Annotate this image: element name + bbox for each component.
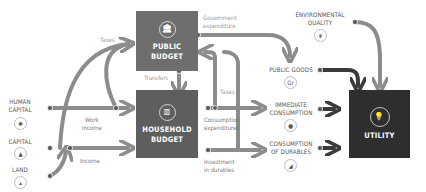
node-dot <box>317 67 322 72</box>
consumption-expenditures-line-2: expenditures <box>204 124 240 132</box>
bank-building-icon: 🏛 <box>159 21 176 38</box>
input-capital: CAPITAL <box>0 138 40 146</box>
flow-taxes-consumption <box>205 52 215 108</box>
household-budget-label-1: HOUSEHOLD <box>142 125 191 135</box>
investment-durables-line-2: in durables <box>204 166 235 174</box>
immediate-consumption-label-1: IMMEDIATE <box>264 101 318 109</box>
work-income-line-1: Work <box>82 116 102 124</box>
flow-label-taxes-mid: Taxes <box>220 88 235 96</box>
capital-label: CAPITAL <box>0 138 40 146</box>
output-immediate-consumption: IMMEDIATE CONSUMPTION <box>264 101 318 116</box>
public-budget-label-1: PUBLIC <box>153 42 182 52</box>
public-goods-label: PUBLIC GOODS <box>264 66 318 74</box>
land-icon: ▴ <box>14 176 27 189</box>
consumption-expenditures-line-1: Consumption <box>204 116 240 124</box>
pile-icon: ▲ <box>14 147 27 160</box>
flow-land <box>50 152 66 176</box>
node-dot <box>47 145 52 150</box>
node-dot <box>205 147 210 152</box>
work-income-line-2: Income <box>82 124 102 132</box>
node-dot <box>317 145 322 150</box>
household-budget-box: ▥ HOUSEHOLD BUDGET <box>136 90 198 158</box>
consumption-durables-label-2: OF DURABLES <box>264 148 318 156</box>
flow-label-transfers: Transfers <box>144 74 168 82</box>
lightbulb-icon: 💡 <box>370 107 390 127</box>
flow-label-work-income: Work Income <box>82 116 102 131</box>
government-expenditure-line-1: Government <box>203 14 237 22</box>
leaf-icon: ❦ <box>314 29 327 42</box>
environmental-quality-label-2: QUALITY <box>288 19 352 27</box>
node-dot <box>205 105 210 110</box>
public-goods-icon: Gr <box>284 76 297 89</box>
node-dot <box>213 106 218 111</box>
consumption-durables-label-1: CONSUMPTION <box>264 140 318 148</box>
output-consumption-durables: CONSUMPTION OF DURABLES <box>264 140 318 155</box>
utility-label: UTILITY <box>364 131 394 141</box>
public-budget-label-2: BUDGET <box>151 52 183 62</box>
public-budget-box: 🏛 PUBLIC BUDGET <box>136 11 198 71</box>
flow-label-government-expenditure: Government expenditure <box>203 14 237 29</box>
bottle-icon: ● <box>284 119 297 132</box>
flow-label-investment-durables: Investment in durables <box>204 158 235 173</box>
household-budget-label-2: BUDGET <box>151 135 183 145</box>
input-land: LAND <box>0 166 40 174</box>
utility-box: 💡 UTILITY <box>349 90 410 158</box>
household-icon: ▥ <box>159 104 176 121</box>
immediate-consumption-label-2: CONSUMPTION <box>264 109 318 117</box>
flow-label-consumption-expenditures: Consumption expenditures <box>204 116 240 131</box>
economic-flow-diagram: 🏛 PUBLIC BUDGET ▥ HOUSEHOLD BUDGET 💡 UTI… <box>0 0 426 192</box>
node-dot <box>113 105 118 110</box>
output-environmental-quality: ENVIRONMENTAL QUALITY <box>288 11 352 26</box>
node-dot <box>352 19 357 24</box>
human-capital-label-1: HUMAN <box>0 98 40 106</box>
person-icon: ✱ <box>14 117 27 130</box>
node-dot <box>67 145 72 150</box>
flow-taxes-from-capital <box>60 44 128 148</box>
flow-taxes-durables <box>224 52 238 150</box>
government-expenditure-line-2: expenditure <box>203 22 237 30</box>
investment-durables-line-1: Investment <box>204 158 235 166</box>
node-dot <box>47 105 52 110</box>
land-label: LAND <box>0 166 40 174</box>
flow-label-income: Income <box>80 157 100 165</box>
flow-taxes-from-work <box>106 44 128 108</box>
output-public-goods: PUBLIC GOODS <box>264 66 318 74</box>
durables-icon: ◢ <box>284 159 297 172</box>
node-dot <box>47 173 52 178</box>
flow-public-goods <box>320 70 358 86</box>
human-capital-label-2: CAPITAL <box>0 106 40 114</box>
environmental-quality-label-1: ENVIRONMENTAL <box>288 11 352 19</box>
flow-label-taxes-top: Taxes <box>100 36 115 44</box>
node-dot <box>317 106 322 111</box>
input-human-capital: HUMAN CAPITAL <box>0 98 40 113</box>
